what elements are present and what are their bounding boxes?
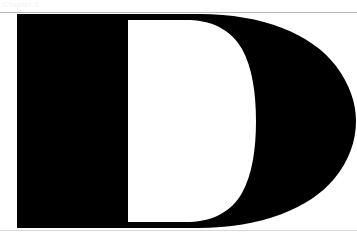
letter-d-outline <box>17 14 356 228</box>
dropcap-glyph-layer <box>0 0 357 240</box>
bottom-rule-divider <box>0 230 357 231</box>
dropcap-letter-d <box>0 0 357 240</box>
page-canvas: Chapter 1 <box>0 0 357 240</box>
